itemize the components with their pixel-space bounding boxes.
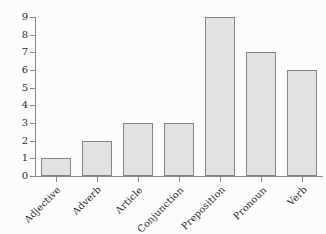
y-tick-label: 4 [0, 100, 28, 110]
y-tick-label: 9 [0, 12, 28, 22]
y-tick-label-text: 1 [4, 153, 28, 163]
x-tick-mark [97, 177, 98, 182]
y-tick-label-text: 6 [4, 65, 28, 75]
x-tick-label: Preposition [179, 184, 227, 232]
y-tick-label: 7 [0, 47, 28, 57]
y-tick-mark [30, 176, 35, 177]
x-tick-mark [220, 177, 221, 182]
x-tick-label: Verb [285, 184, 309, 208]
x-tick-label: Adverb [70, 184, 103, 217]
bar [205, 17, 235, 176]
y-tick-label: 0 [0, 171, 28, 181]
bar [246, 52, 276, 176]
x-tick-mark [261, 177, 262, 182]
x-tick-mark [56, 177, 57, 182]
y-tick-label-text: 0 [4, 171, 28, 181]
x-tick-mark [302, 177, 303, 182]
y-tick-label-text: 8 [4, 30, 28, 40]
y-tick-label-text: 5 [4, 83, 28, 93]
bar [123, 123, 153, 176]
bar [41, 158, 71, 176]
y-tick-label-text: 9 [4, 12, 28, 22]
y-tick-label: 3 [0, 118, 28, 128]
x-tick-mark [179, 177, 180, 182]
bar [287, 70, 317, 176]
y-tick-label-text: 4 [4, 100, 28, 110]
y-tick-label-text: 2 [4, 136, 28, 146]
y-tick-label: 6 [0, 65, 28, 75]
y-tick-label: 1 [0, 153, 28, 163]
bars-group [35, 17, 323, 176]
y-tick-label: 2 [0, 136, 28, 146]
x-tick-mark [138, 177, 139, 182]
y-tick-label-text: 3 [4, 118, 28, 128]
x-tick-label: Adjective [22, 184, 63, 225]
bar [164, 123, 194, 176]
x-tick-label: Pronoun [231, 184, 269, 222]
y-tick-label: 5 [0, 83, 28, 93]
y-tick-label: 8 [0, 30, 28, 40]
y-tick-label-text: 7 [4, 47, 28, 57]
bar-chart: 0123456789 AdjectiveAdverbArticleConjunc… [0, 0, 326, 234]
x-tick-label: Article [113, 184, 145, 216]
bar [82, 141, 112, 176]
